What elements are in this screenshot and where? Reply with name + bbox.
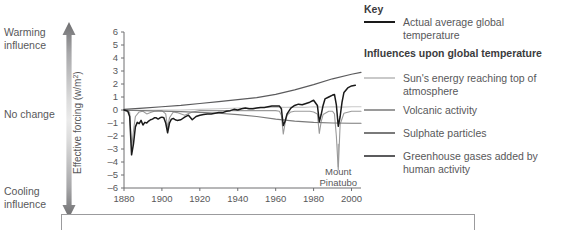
chart-legend: Key Actual average global temperature In… [364,0,562,200]
chart-series-layer [124,72,361,170]
legend-swatch-greenhouse-gases [364,155,395,157]
cooling-influence-label: Cooling influence [4,185,60,210]
annotation-label-line2: Pinatubo [319,177,357,188]
y-axis-title: Effective forcing (w/m2) [72,71,83,174]
legend-influences-heading: Influences upon global temperature [364,47,542,59]
chart-plot-svg: Effective forcing (w/m2) 6543210–1–2–3–4… [70,24,365,210]
legend-swatch-sulphate-particles [364,132,395,134]
annotation-label-line1: Mount [325,166,352,177]
y-tick-label: 5 [113,39,118,50]
chart-series-line [124,110,361,123]
y-tick-label: 2 [113,78,118,89]
y-tick-label: –3 [107,143,118,154]
chart-annotation-layer: MountPinatubo [319,144,357,188]
chart-series-line [124,85,355,155]
legend-key-heading: Key [364,3,383,15]
legend-label-greenhouse-gases: Greenhouse gases added by human activity [403,150,561,175]
y-tick-label: –1 [107,117,118,128]
y-tick-label: 4 [113,52,118,63]
caption-box [61,214,475,230]
chart-series-line [124,72,361,109]
legend-label-sun-energy: Sun's energy reaching top of atmosphere [403,72,561,97]
x-axis-ticks: 1880190019201940196019802000 [113,188,362,204]
legend-swatch-actual-temperature [364,21,395,23]
y-axis-ticks: 6543210–1–2–3–4–5–6 [107,26,124,193]
x-tick-label: 1880 [113,193,134,204]
effective-forcing-chart: Effective forcing (w/m2) 6543210–1–2–3–4… [70,24,365,210]
no-change-label: No change [4,108,60,121]
x-tick-label: 1940 [227,193,248,204]
warming-influence-line2: influence [4,39,60,52]
legend-label-volcanic-activity: Volcanic activity [403,104,561,117]
x-tick-label: 1900 [151,193,172,204]
x-tick-label: 2000 [341,193,362,204]
y-tick-label: 1 [113,91,118,102]
cooling-influence-line1: Cooling [4,185,60,198]
legend-label-actual-temperature: Actual average global temperature [403,16,561,41]
y-tick-label: 6 [113,26,118,37]
warming-influence-label: Warming influence [4,26,60,51]
legend-swatch-volcanic-activity [364,109,395,111]
y-tick-label: –4 [107,156,118,167]
legend-swatch-sun-energy [364,77,395,79]
legend-label-sulphate-particles: Sulphate particles [403,127,561,140]
y-tick-label: 3 [113,65,118,76]
y-tick-label: –6 [107,182,118,193]
warming-influence-line1: Warming [4,26,60,39]
x-tick-label: 1980 [303,193,324,204]
y-tick-label: –5 [107,169,118,180]
y-tick-label: 0 [113,104,118,115]
x-tick-label: 1960 [265,193,286,204]
y-tick-label: –2 [107,130,118,141]
x-tick-label: 1920 [189,193,210,204]
cooling-influence-line2: influence [4,198,60,211]
